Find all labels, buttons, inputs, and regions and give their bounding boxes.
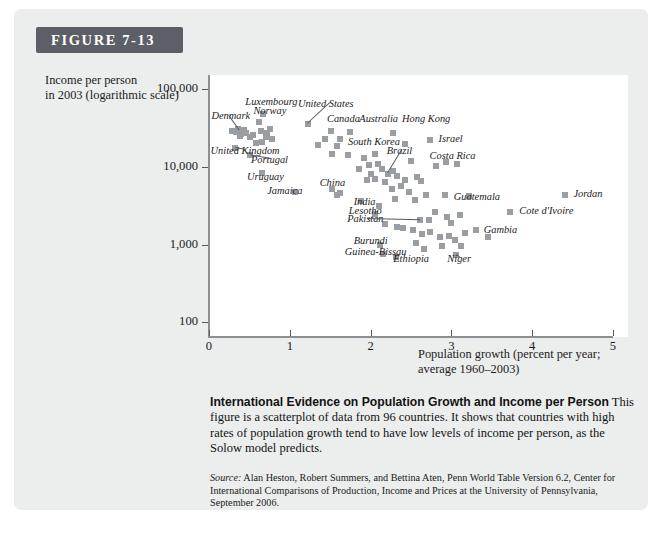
y-tick-label: 100	[114, 314, 198, 329]
data-point	[562, 192, 568, 198]
data-point	[345, 152, 351, 158]
x-axis-title-line1: Population growth (percent per year;	[418, 347, 638, 362]
source-body: Alan Heston, Robert Summers, and Bettina…	[210, 472, 615, 508]
data-point	[382, 179, 388, 185]
data-point	[452, 237, 458, 243]
point-label: China	[320, 177, 345, 188]
y-tick-label: 100,000	[114, 81, 198, 96]
data-point	[427, 137, 433, 143]
y-tick-mark	[202, 89, 208, 90]
data-point	[427, 229, 433, 235]
data-point	[237, 133, 243, 139]
y-tick-mark	[202, 167, 208, 168]
data-point	[423, 192, 429, 198]
point-label: Norway	[253, 105, 286, 116]
data-point	[372, 151, 378, 157]
point-label: Niger	[447, 253, 471, 264]
data-point	[366, 162, 372, 168]
x-tick-mark	[613, 330, 614, 336]
data-point	[392, 196, 398, 202]
y-tick-label: 10,000	[114, 159, 198, 174]
data-point	[442, 192, 448, 198]
data-point	[337, 136, 343, 142]
data-point	[412, 197, 418, 203]
data-point	[421, 246, 427, 252]
data-point	[413, 240, 419, 246]
data-point	[269, 136, 275, 142]
data-point	[437, 234, 443, 240]
data-point	[334, 143, 340, 149]
data-point	[448, 220, 454, 226]
x-tick-label: 1	[278, 339, 302, 354]
point-label: Burundi	[354, 235, 388, 246]
y-tick-label: 1,000	[114, 237, 198, 252]
data-point	[454, 161, 460, 167]
point-label: Costa Rica	[430, 150, 476, 161]
point-label: Jamaica	[267, 185, 302, 196]
data-point	[419, 231, 425, 237]
x-tick-label: 2	[359, 339, 383, 354]
x-tick-mark	[532, 330, 533, 336]
x-tick-mark	[290, 330, 291, 336]
y-tick-mark	[202, 245, 208, 246]
source-label: Source:	[210, 472, 241, 483]
figure-source: Source: Alan Heston, Robert Summers, and…	[210, 472, 642, 510]
data-point	[259, 139, 265, 145]
data-point	[473, 227, 479, 233]
x-tick-label: 0	[197, 339, 221, 354]
data-point	[364, 177, 370, 183]
x-tick-mark	[209, 330, 210, 336]
point-label: Guatemala	[454, 191, 500, 202]
point-label: Hong Kong	[402, 113, 450, 124]
x-axis-title: Population growth (percent per year; ave…	[418, 347, 638, 376]
data-point	[458, 243, 464, 249]
point-label: Canada	[327, 113, 360, 124]
data-point	[329, 151, 335, 157]
data-point	[389, 186, 395, 192]
data-point	[408, 158, 414, 164]
data-point	[315, 142, 321, 148]
data-point	[418, 178, 424, 184]
point-label: Uruguay	[247, 171, 284, 182]
point-label: Australia	[359, 113, 398, 124]
data-point	[406, 189, 412, 195]
data-point	[390, 130, 396, 136]
data-point	[334, 192, 340, 198]
data-point	[432, 209, 438, 215]
data-point	[462, 230, 468, 236]
x-tick-mark	[371, 330, 372, 336]
point-label: Cote d'Ivoire	[519, 205, 573, 216]
data-point	[347, 129, 353, 135]
data-point	[439, 243, 445, 249]
point-label: United States	[298, 98, 354, 109]
data-point	[410, 227, 416, 233]
data-point	[267, 126, 273, 132]
data-point	[398, 183, 404, 189]
data-point	[426, 217, 432, 223]
point-label: Israel	[438, 133, 462, 144]
x-axis-line	[208, 336, 613, 338]
y-axis-line	[208, 75, 210, 338]
caption-headline: International Evidence on Population Gro…	[210, 395, 609, 409]
point-label: Gambia	[484, 224, 517, 235]
figure-card: FIGURE 7-13 Income per person in 2003 (l…	[14, 9, 648, 510]
data-point	[400, 225, 406, 231]
data-point	[250, 132, 256, 138]
x-axis-title-line2: average 1960–2003)	[418, 362, 638, 377]
data-point	[356, 166, 362, 172]
data-point	[394, 173, 400, 179]
data-point	[258, 128, 264, 134]
data-point	[433, 163, 439, 169]
figure-caption: International Evidence on Population Gro…	[210, 395, 635, 456]
data-point	[328, 128, 334, 134]
data-point	[256, 119, 262, 125]
data-point	[457, 212, 463, 218]
x-tick-mark	[451, 330, 452, 336]
data-point	[322, 136, 328, 142]
data-point	[372, 176, 378, 182]
data-point	[402, 177, 408, 183]
data-point	[485, 234, 491, 240]
point-label: Jordan	[573, 188, 602, 199]
data-point	[507, 209, 513, 215]
data-point	[361, 155, 367, 161]
